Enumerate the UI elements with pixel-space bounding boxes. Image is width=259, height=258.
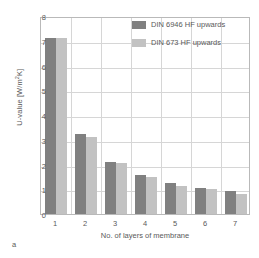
legend-swatch — [132, 39, 146, 47]
x-axis-tick-label: 4 — [130, 219, 160, 228]
legend-label: DIN 673 HF upwards — [151, 38, 221, 47]
legend-item: DIN 673 HF upwards — [132, 38, 225, 47]
y-axis-tick-label: 6 — [30, 62, 46, 71]
bar-group — [191, 18, 221, 214]
y-axis-tick-label: 7 — [30, 37, 46, 46]
x-axis-tick-label: 7 — [220, 219, 250, 228]
bar — [206, 189, 217, 214]
x-axis-tick-label: 5 — [160, 219, 190, 228]
y-axis-tick-label: 4 — [30, 112, 46, 121]
legend-label: DIN 6946 HF upwards — [151, 20, 225, 29]
chart-legend: DIN 6946 HF upwardsDIN 673 HF upwards — [132, 17, 225, 47]
x-axis-tick-label: 1 — [40, 219, 70, 228]
y-axis-tick-label: 1 — [30, 186, 46, 195]
bar — [225, 191, 236, 214]
bar — [165, 183, 176, 214]
y-axis-tick-label: 8 — [30, 13, 46, 22]
x-axis-tick-label: 3 — [100, 219, 130, 228]
bar — [86, 137, 97, 214]
bar — [176, 186, 187, 214]
y-axis-title-base: U-value [W/m — [15, 79, 24, 126]
bar-group — [101, 18, 131, 214]
y-axis-tick-label: 3 — [30, 136, 46, 145]
bar — [135, 175, 146, 214]
bar — [236, 194, 247, 214]
bar — [146, 177, 157, 214]
bar-chart-figure: U-value [W/m2K] 012345678 1234567 No. of… — [0, 0, 259, 258]
x-axis-title: No. of layers of membrane — [40, 231, 250, 240]
bar-group — [221, 18, 251, 214]
bar — [195, 188, 206, 214]
bar — [56, 38, 67, 214]
legend-swatch — [132, 21, 146, 29]
y-axis-title-exponent: 2 — [14, 76, 20, 79]
y-axis-title-tail: K] — [15, 69, 24, 76]
x-axis-tick-label: 6 — [190, 219, 220, 228]
figure-caption-label: a — [12, 240, 16, 249]
bar-group — [161, 18, 191, 214]
x-axis-tick-label: 2 — [70, 219, 100, 228]
bar — [105, 162, 116, 214]
bar-group — [71, 18, 101, 214]
bar-group — [131, 18, 161, 214]
legend-item: DIN 6946 HF upwards — [132, 20, 225, 29]
y-axis-title: U-value [W/m2K] — [14, 42, 25, 152]
bar — [116, 163, 127, 214]
bar — [75, 134, 86, 214]
y-axis-tick-label: 2 — [30, 161, 46, 170]
bar — [45, 38, 56, 214]
y-axis-tick-label: 5 — [30, 87, 46, 96]
